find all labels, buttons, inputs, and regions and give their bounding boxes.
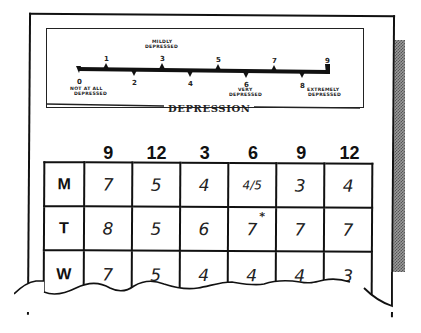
day-label: T (44, 206, 84, 250)
day-label: M (44, 162, 84, 206)
depression-scale: 1 3 5 7 9 0 2 4 6 8 NOT AT ALL DEPRESSED… (0, 0, 421, 130)
time-header: 9 12 3 6 9 12 (84, 143, 374, 163)
table-row: M 7 5 4 4/5 3 4 (44, 162, 372, 208)
rating-cell: 5 (132, 207, 180, 251)
rating-cell: 3 (276, 163, 324, 207)
rating-cell: 8 (84, 206, 132, 250)
rating-value: 7 (247, 219, 258, 239)
rating-cell: 4 (324, 164, 372, 208)
scale-title: DEPRESSION (168, 103, 251, 114)
anchor-extremely-line2: DEPRESSED (308, 92, 341, 97)
asterisk-annotation: * (259, 210, 265, 223)
tick-5: 5 (216, 56, 221, 64)
time-col-6: 12 (325, 143, 373, 163)
rating-cell: 7 (84, 162, 132, 206)
tick-7: 7 (272, 57, 277, 65)
tick-0: 0 (77, 78, 82, 86)
tick-3: 3 (160, 55, 165, 63)
rating-cell: 7 (276, 207, 324, 251)
tick-1: 1 (104, 55, 109, 63)
rating-cell: 4 (180, 163, 228, 207)
tick-4: 4 (188, 80, 193, 88)
time-col-2: 12 (132, 143, 180, 163)
rating-cell-annotated: 7* (228, 207, 276, 251)
anchor-mildly-line2: DEPRESSED (145, 44, 178, 49)
tick-8: 8 (300, 82, 305, 90)
rating-cell: 5 (132, 163, 180, 207)
table-row: T 8 5 6 7* 7 7 (44, 206, 372, 252)
tick-2: 2 (132, 79, 137, 87)
tick-9: 9 (325, 57, 330, 65)
anchor-not-at-all-line2: DEPRESSED (74, 91, 107, 96)
torn-paper-edge (14, 272, 406, 312)
rating-cell: 6 (180, 207, 228, 251)
anchor-very-line2: DEPRESSED (229, 92, 262, 97)
rating-cell: 4/5 (228, 163, 276, 207)
rating-cell: 7 (324, 208, 372, 252)
time-col-5: 9 (277, 143, 325, 163)
time-col-4: 6 (229, 143, 277, 163)
time-col-3: 3 (181, 143, 229, 163)
time-col-1: 9 (84, 143, 132, 163)
